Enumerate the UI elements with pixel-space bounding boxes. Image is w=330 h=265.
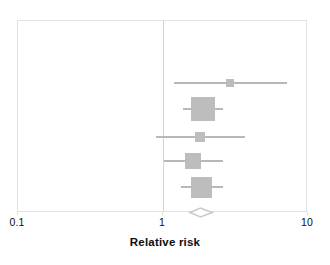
x-axis-title: Relative risk <box>0 236 330 248</box>
effect-size-marker <box>185 153 201 169</box>
x-axis-tick-label: 0.1 <box>9 216 24 228</box>
x-axis-tick-mark <box>162 212 163 215</box>
x-axis-tick-mark <box>307 212 308 215</box>
x-axis: 0.1110 <box>0 212 330 234</box>
forest-plot-figure: 0.1110 Relative risk <box>0 0 330 265</box>
effect-size-marker <box>226 79 234 87</box>
x-axis-tick-label: 1 <box>159 216 165 228</box>
x-axis-tick-mark <box>17 212 18 215</box>
null-reference-line <box>163 21 164 211</box>
x-axis-tick-label: 10 <box>301 216 313 228</box>
effect-size-marker <box>191 177 212 198</box>
effect-size-marker <box>191 97 215 121</box>
plot-area <box>17 20 307 212</box>
effect-size-marker <box>195 132 205 142</box>
